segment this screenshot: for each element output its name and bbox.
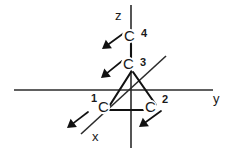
atoms-group: C1C2C3C4 <box>91 27 168 115</box>
pointer-to-c1-shaft <box>74 112 88 123</box>
pointer-to-c3-shaft <box>108 61 122 73</box>
axes-group <box>14 5 213 148</box>
pointer-to-c3-head <box>101 69 111 78</box>
pointer-to-c1-head <box>67 119 77 128</box>
pointer-to-c4 <box>102 33 124 49</box>
pointer-to-c4-head <box>102 40 112 49</box>
atom-c4-index: 4 <box>141 27 148 39</box>
atom-c2-symbol: C <box>145 98 156 115</box>
y-axis-label: y <box>213 91 220 106</box>
pointer-to-c3 <box>101 61 122 78</box>
atom-c1-index: 1 <box>91 92 97 104</box>
atom-c3-symbol: C <box>123 55 134 72</box>
axis-labels-group: xyz <box>92 8 220 144</box>
x-axis-label: x <box>92 129 99 144</box>
pointer-to-c2-head <box>139 118 149 127</box>
atom-c3-index: 3 <box>140 56 146 68</box>
figure-canvas: C1C2C3C4 xyz <box>0 0 240 154</box>
molecular-axes-diagram: C1C2C3C4 xyz <box>0 0 240 154</box>
pointer-to-c1 <box>67 112 88 128</box>
bond-c3-c1 <box>110 72 131 105</box>
z-axis-label: z <box>115 8 122 23</box>
atom-c1-symbol: C <box>98 98 109 115</box>
pointer-to-c4-shaft <box>109 33 124 44</box>
atom-c2-index: 2 <box>162 93 168 105</box>
atom-c4-symbol: C <box>124 27 135 44</box>
